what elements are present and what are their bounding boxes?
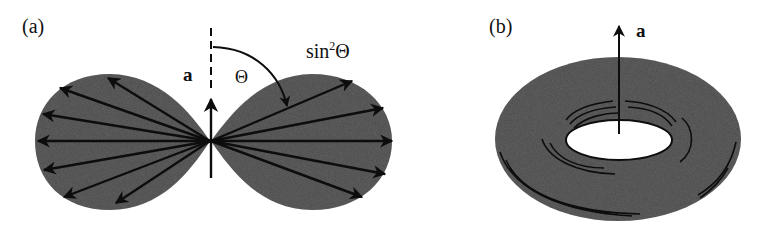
func-prefix: sin bbox=[306, 40, 329, 62]
panel-a-label: (a) bbox=[22, 16, 44, 36]
panel-b-label: (b) bbox=[489, 16, 512, 36]
figure: (a) a Θ sin2Θ (b) a bbox=[0, 0, 773, 230]
panel-b-diagram bbox=[495, 26, 741, 221]
diagram-canvas bbox=[0, 0, 773, 230]
func-suffix: Θ bbox=[335, 40, 349, 62]
panel-a-vector-label: a bbox=[183, 65, 193, 84]
panel-b-vector-label: a bbox=[636, 21, 646, 40]
theta-angle-label: Θ bbox=[235, 68, 248, 86]
sin-squared-theta-label: sin2Θ bbox=[306, 40, 350, 61]
